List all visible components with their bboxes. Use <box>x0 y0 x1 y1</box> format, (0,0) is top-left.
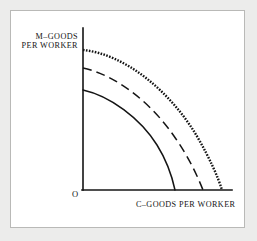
series-middle-frontier <box>83 68 203 190</box>
x-axis-label: C–GOODS PER WORKER <box>136 201 235 210</box>
y-axis-label: M–GOODS PER WORKER <box>14 33 78 50</box>
y-axis-label-line2: PER WORKER <box>14 42 78 51</box>
figure-page: M–GOODS PER WORKER C–GOODS PER WORKER O <box>0 0 257 241</box>
series-outer-frontier <box>83 50 222 190</box>
origin-label: O <box>72 190 79 199</box>
chart-axes <box>82 28 232 190</box>
series-inner-frontier <box>83 90 175 190</box>
